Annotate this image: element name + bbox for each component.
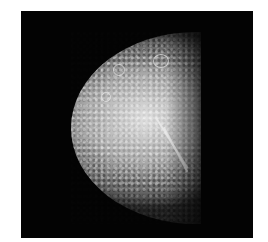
moon-image bbox=[71, 32, 201, 224]
crater bbox=[101, 92, 111, 102]
space-background bbox=[21, 11, 253, 238]
terminator-shadow bbox=[166, 32, 201, 224]
crater bbox=[113, 64, 125, 76]
